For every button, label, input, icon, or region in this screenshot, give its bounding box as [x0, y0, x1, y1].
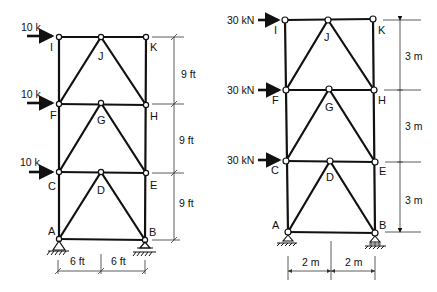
load-label-F: 10 k: [21, 88, 42, 100]
dim-label-bottom: 3 m: [405, 194, 423, 206]
joint-label-I: I: [50, 41, 53, 53]
joint-label-A: A: [272, 219, 280, 231]
joint-label-D: D: [326, 171, 334, 183]
joint-label-D: D: [97, 184, 105, 196]
joint-label-F: F: [272, 94, 279, 106]
joint-label-B: B: [149, 226, 156, 238]
dim-label-top: 9 ft: [181, 68, 196, 80]
joint-label-J: J: [324, 31, 330, 43]
dim-label-left-bay: 2 m: [302, 256, 320, 268]
left-vertical-dimensions: 9 ft 9 ft 9 ft: [152, 34, 196, 243]
joint-label-F: F: [50, 109, 57, 121]
joint-label-B: B: [379, 219, 386, 231]
joint-label-A: A: [48, 225, 56, 237]
joint-label-C: C: [48, 180, 56, 192]
load-label-C: 30 kN: [227, 154, 254, 166]
right-loads: 30 kN 30 kN 30 kN: [227, 14, 279, 166]
joint-label-K: K: [378, 24, 386, 36]
load-label-F: 30 kN: [227, 84, 254, 96]
right-joints: [282, 16, 378, 236]
joint-label-H: H: [378, 94, 386, 106]
pin-support-icon: [47, 241, 69, 255]
load-label-I: 10 k: [21, 21, 42, 33]
joint-label-K: K: [150, 41, 158, 53]
left-joints: [56, 34, 148, 242]
dim-label-top: 3 m: [405, 50, 423, 62]
left-members: [59, 37, 146, 240]
right-vertical-dimensions: 3 m 3 m 3 m: [383, 20, 423, 232]
joint-label-J: J: [98, 50, 104, 62]
joint-label-C: C: [271, 164, 279, 176]
pin-support-icon: [277, 235, 297, 246]
dim-label-left-bay: 6 ft: [70, 255, 85, 267]
roller-support-icon: [133, 242, 156, 256]
roller-support-icon: [365, 236, 386, 249]
dim-label-bottom: 9 ft: [179, 197, 194, 209]
right-horizontal-dimensions: 2 m 2 m: [288, 241, 375, 280]
joint-label-H: H: [150, 110, 158, 122]
load-label-I: 30 kN: [227, 14, 254, 26]
left-truss: I J K F G H C D E A B 10 k 10 k 10 k: [20, 21, 196, 274]
right-truss: I J K F G H C D E A B 30 kN 30 kN 30 kN: [227, 14, 423, 280]
joint-label-E: E: [150, 179, 157, 191]
dim-label-right-bay: 2 m: [345, 256, 363, 268]
dim-label-middle: 3 m: [405, 120, 423, 132]
joint-label-G: G: [97, 114, 106, 126]
dim-label-middle: 9 ft: [179, 134, 194, 146]
left-loads: 10 k 10 k 10 k: [20, 21, 52, 172]
joint-label-I: I: [274, 24, 277, 36]
dim-label-right-bay: 6 ft: [111, 255, 126, 267]
joint-label-E: E: [379, 165, 386, 177]
left-horizontal-dimensions: 6 ft 6 ft: [55, 254, 148, 274]
right-members: [285, 19, 375, 233]
joint-label-G: G: [325, 101, 334, 113]
load-label-C: 10 k: [20, 156, 41, 168]
